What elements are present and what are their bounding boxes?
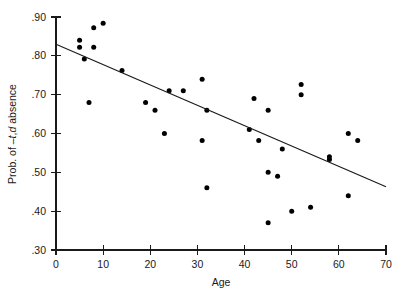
data-point <box>280 147 285 152</box>
x-tick-label: 40 <box>239 258 251 270</box>
data-point <box>77 38 82 43</box>
data-point <box>346 131 351 136</box>
data-point <box>299 82 304 87</box>
data-point <box>91 25 96 30</box>
data-point <box>355 138 360 143</box>
y-axis-title: Prob. of –t,d absence <box>6 84 18 184</box>
y-axis-title-prefix: Prob. of – <box>6 138 18 184</box>
x-tick-label: 10 <box>97 258 109 270</box>
data-point <box>275 174 280 179</box>
y-axis: .30.40.50.60.70.80.90 <box>31 11 61 256</box>
data-point <box>200 77 205 82</box>
data-point <box>87 100 92 105</box>
x-tick-label: 30 <box>192 258 204 270</box>
x-axis-title: Age <box>212 276 231 288</box>
y-tick-label: .60 <box>31 127 46 139</box>
data-point <box>266 108 271 113</box>
svg-text:Prob. of –t,d absence: Prob. of –t,d absence <box>6 84 18 184</box>
data-point <box>143 100 148 105</box>
data-point <box>346 193 351 198</box>
data-point <box>252 96 257 101</box>
data-point <box>256 138 261 143</box>
x-axis: 010203040506070 <box>53 245 392 270</box>
scatter-plot-figure: .30.40.50.60.70.80.90 010203040506070 Ag… <box>0 0 404 295</box>
data-point <box>101 21 106 26</box>
y-tick-label: .70 <box>31 88 46 100</box>
data-point <box>266 170 271 175</box>
data-point <box>77 45 82 50</box>
x-tick-label: 50 <box>286 258 298 270</box>
data-point <box>200 138 205 143</box>
x-tick-label: 60 <box>333 258 345 270</box>
data-point <box>289 209 294 214</box>
y-axis-tick-labels: .30.40.50.60.70.80.90 <box>31 11 46 256</box>
data-point <box>299 92 304 97</box>
x-tick-label: 70 <box>380 258 392 270</box>
x-tick-label: 0 <box>53 258 59 270</box>
data-point <box>91 45 96 50</box>
x-axis-tick-labels: 010203040506070 <box>53 258 392 270</box>
y-tick-label: .90 <box>31 11 46 23</box>
y-tick-label: .30 <box>31 244 46 256</box>
x-tick-label: 20 <box>144 258 156 270</box>
y-tick-label: .80 <box>31 49 46 61</box>
y-axis-title-suffix: absence <box>6 84 18 127</box>
data-point <box>153 108 158 113</box>
y-tick-label: .40 <box>31 205 46 217</box>
data-point <box>162 131 167 136</box>
data-point <box>204 185 209 190</box>
chart-canvas: .30.40.50.60.70.80.90 010203040506070 Ag… <box>0 0 404 295</box>
y-tick-label: .50 <box>31 166 46 178</box>
data-point <box>308 205 313 210</box>
data-point <box>266 220 271 225</box>
regression-line <box>56 44 386 187</box>
data-points-layer <box>77 21 360 226</box>
data-point <box>181 88 186 93</box>
